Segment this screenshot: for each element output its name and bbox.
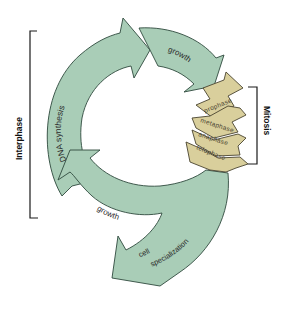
interphase-bracket: Interphase (14, 31, 38, 218)
interphase-label: Interphase (14, 117, 24, 160)
growth-g2-arrow: growth (139, 28, 224, 92)
mitosis-bracket: Mitosis (248, 87, 272, 164)
growth-g1-arrow: growth cell specialization (58, 150, 228, 286)
mitosis-label: Mitosis (262, 106, 272, 136)
cell-cycle-diagram: Interphase Mitosis DNA synthesis growth … (0, 0, 285, 312)
